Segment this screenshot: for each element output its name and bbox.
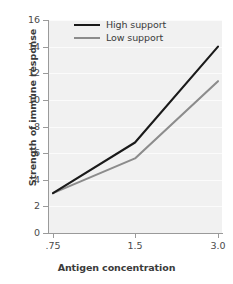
y-axis-tick-label: 2 — [12, 201, 40, 211]
legend-item-low-support: Low support — [74, 31, 166, 44]
gridline — [49, 180, 222, 181]
x-axis-tick — [135, 233, 136, 238]
x-axis-tick-label: .75 — [33, 241, 73, 251]
y-axis-tick — [43, 127, 49, 128]
plot-area — [49, 20, 222, 233]
gridline — [49, 47, 222, 48]
chart-figure: 16 14 12 10 8 6 4 2 0 .75 1.5 3.0 High s… — [0, 0, 233, 284]
y-axis-tick — [43, 180, 49, 181]
legend-item-high-support: High support — [74, 18, 166, 31]
y-axis-tick — [43, 20, 49, 21]
legend-swatch-low-support — [74, 37, 100, 39]
x-axis-tick — [53, 233, 54, 238]
x-axis-tick — [218, 233, 219, 238]
gridline — [49, 206, 222, 207]
y-axis-tick-label: 0 — [12, 228, 40, 238]
y-axis-tick — [43, 47, 49, 48]
legend-swatch-high-support — [74, 24, 100, 26]
x-axis-title: Antigen concentration — [0, 262, 233, 273]
y-axis-tick — [43, 233, 49, 234]
legend-label-low-support: Low support — [106, 32, 163, 43]
y-axis-tick — [43, 153, 49, 154]
gridline — [49, 127, 222, 128]
chart-legend: High support Low support — [74, 18, 166, 44]
legend-label-high-support: High support — [106, 19, 166, 30]
gridline — [49, 73, 222, 74]
y-axis-tick — [43, 73, 49, 74]
x-axis-tick-label: 1.5 — [115, 241, 155, 251]
y-axis-tick — [43, 206, 49, 207]
y-axis-tick — [43, 100, 49, 101]
y-axis-title: Strength of immune response — [27, 13, 38, 203]
x-axis-tick-label: 3.0 — [198, 241, 233, 251]
gridline — [49, 100, 222, 101]
gridline — [49, 153, 222, 154]
